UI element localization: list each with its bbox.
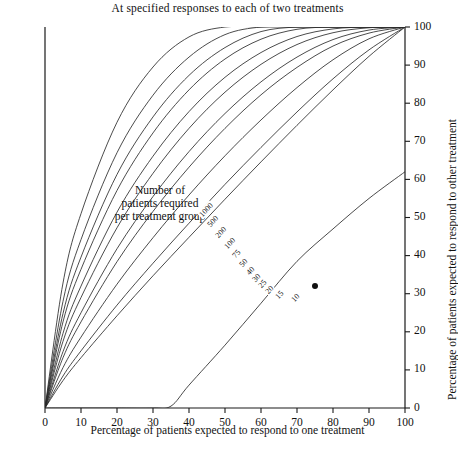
y-tick-10: 10 — [414, 362, 444, 374]
y-tick-0: 0 — [414, 401, 444, 413]
y-tick-90: 90 — [414, 58, 444, 70]
y-tick-70: 70 — [414, 134, 444, 146]
y-tick-80: 80 — [414, 96, 444, 108]
y-tick-100: 100 — [414, 20, 444, 32]
curve-group-annotation: Number of patients required per treatmen… — [104, 184, 216, 224]
x-axis-title: Percentage of patients expected to respo… — [0, 424, 455, 436]
y-tick-40: 40 — [414, 248, 444, 260]
y-tick-50: 50 — [414, 210, 444, 222]
y-tick-60: 60 — [414, 172, 444, 184]
y-axis-title: Percentage of patients expected to respo… — [446, 119, 458, 400]
y-tick-20: 20 — [414, 324, 444, 336]
annotation-line-2: patients required — [104, 197, 216, 210]
annotation-line-1: Number of — [104, 184, 216, 197]
y-tick-30: 30 — [414, 286, 444, 298]
